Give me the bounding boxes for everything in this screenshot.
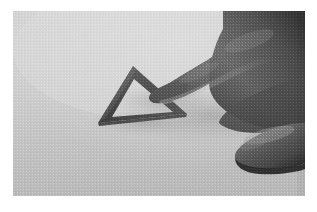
photo-description: A hand with an extended index finger rea… <box>0 0 1 1</box>
screenshot-canvas: A hand with an extended index finger rea… <box>0 0 317 212</box>
photograph <box>13 11 305 196</box>
photo-metadata: A hand with an extended index finger rea… <box>0 0 1 1</box>
photo-scene <box>13 11 305 196</box>
photo-edge-shade <box>297 11 305 196</box>
